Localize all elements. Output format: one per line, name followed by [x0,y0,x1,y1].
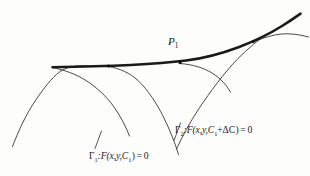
point-label-p1: P1 [168,35,178,47]
tangent-points-group [107,40,255,67]
family-curves-group [13,34,309,155]
curve-label-gamma2-tail: ) = 0 [235,124,253,135]
curve-label-gamma1-tail: ) = 0 [131,150,149,161]
curve-label-gamma2-delta: +ΔC [217,124,235,135]
point-label-p1-base: P [168,35,175,47]
envelope-diagram: P1 Γ1:F(x,y,C1) = 0 Γ2:F(x,y,C1+ΔC) = 0 [0,0,310,176]
point-label-p1-sub: 1 [175,42,179,50]
family-curve-left [13,66,89,147]
diagram-canvas [0,0,310,176]
leader-line-gamma1 [95,131,102,149]
curve-label-gamma2-expr: :F(x,y,C [184,124,215,135]
family-curve-arc-p1 [180,64,231,93]
tangent-point-p1 [178,61,181,64]
family-curve-mid-left [53,68,130,137]
curve-label-gamma1-expr: :F(x,y,C [98,150,129,161]
curve-label-gamma2: Γ2:F(x,y,C1+ΔC) = 0 [175,124,253,135]
tangent-point-left [107,65,110,68]
gamma1-curve [109,67,179,155]
tangent-point-right [252,40,255,43]
curve-label-gamma1: Γ1:F(x,y,C1) = 0 [89,150,149,161]
